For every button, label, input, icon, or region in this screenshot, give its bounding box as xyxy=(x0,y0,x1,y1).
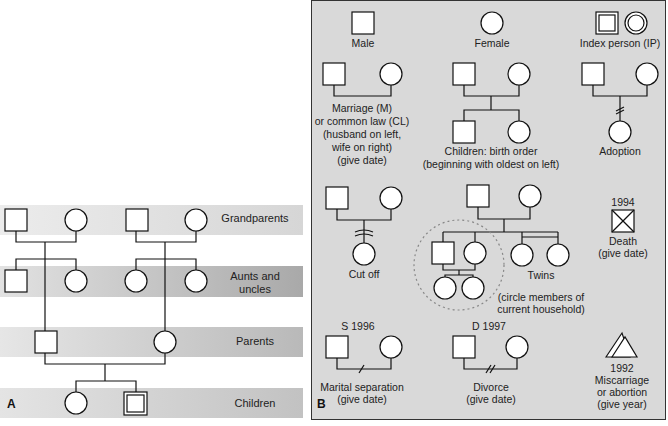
legend-label: wife on right) xyxy=(331,141,392,153)
legend-label: 1992 xyxy=(610,362,634,374)
legend-label: (beginning with oldest on left) xyxy=(423,158,560,170)
legend-labels: Male Female Index person (IP) Marriage (… xyxy=(0,0,668,426)
legend-label: 1994 xyxy=(611,196,635,208)
legend-label: Twins xyxy=(528,269,555,281)
legend-label: (give year) xyxy=(597,398,647,410)
legend-label: Adoption xyxy=(599,145,641,157)
panel-b-letter: B xyxy=(317,397,326,411)
legend-label: (give date) xyxy=(598,247,648,259)
legend-label: current household) xyxy=(497,303,585,315)
legend-label: Miscarriage xyxy=(595,374,649,386)
male-label: Male xyxy=(352,37,375,49)
legend-label: or abortion xyxy=(597,386,647,398)
legend-label: (circle members of xyxy=(498,291,584,303)
legend-label: (give date) xyxy=(466,393,516,405)
legend-label: (give date) xyxy=(337,154,387,166)
legend-label: Marital separation xyxy=(320,381,404,393)
legend-label: S 1996 xyxy=(341,320,374,332)
legend-label: (husband on left, xyxy=(323,128,401,140)
female-label: Female xyxy=(474,37,509,49)
legend-label: Cut off xyxy=(349,268,380,280)
legend-label: Divorce xyxy=(473,381,509,393)
legend-label: D 1997 xyxy=(472,320,506,332)
legend-label: or common law (CL) xyxy=(315,115,410,127)
legend-label: Marriage (M) xyxy=(332,102,392,114)
index-person-label: Index person (IP) xyxy=(580,37,661,49)
legend-label: (give date) xyxy=(337,393,387,405)
legend-label: Children: birth order xyxy=(445,145,538,157)
legend-label: Death xyxy=(609,235,637,247)
